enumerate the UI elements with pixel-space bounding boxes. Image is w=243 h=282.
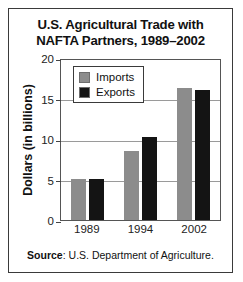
bar-imports-1989 [71,179,86,220]
bar-exports-2002 [195,90,210,220]
plot-area: Imports Exports [60,59,221,221]
y-tick-label: 20 [41,53,54,65]
bar-imports-1994 [124,151,139,220]
bar-exports-1994 [142,137,157,220]
chart-title: U.S. Agricultural Trade with NAFTA Partn… [15,17,226,48]
legend-label-imports: Imports [96,71,134,83]
x-tick-label: 1989 [64,223,110,235]
legend-swatch-imports [79,72,90,83]
chart-figure: U.S. Agricultural Trade with NAFTA Partn… [8,8,233,273]
x-tick-label: 1994 [117,223,163,235]
chart-title-line-1: U.S. Agricultural Trade with [15,17,226,33]
y-tick-label: 5 [48,175,54,187]
chart-legend: Imports Exports [73,66,144,103]
y-tick-label: 15 [41,94,54,106]
x-tick-label: 2002 [171,223,217,235]
bar-group [177,60,210,220]
y-tick-label: 10 [41,134,54,146]
source-label: Source [27,249,63,261]
bar-imports-2002 [177,88,192,220]
source-value: : U.S. Department of Agriculture. [63,249,214,261]
y-axis-tick-labels: 05101520 [31,59,57,221]
legend-item-exports: Exports [79,86,135,98]
bar-exports-1989 [89,179,104,220]
y-tick-label: 0 [48,215,54,227]
chart-title-line-2: NAFTA Partners, 1989–2002 [15,33,226,49]
legend-item-imports: Imports [79,71,135,83]
x-axis-tick-labels: 198919942002 [60,223,221,235]
source-note: Source: U.S. Department of Agriculture. [9,249,232,261]
plot-area-wrapper: Dollars (in billions) 05101520 Imports E… [9,59,234,243]
legend-label-exports: Exports [96,86,135,98]
legend-swatch-exports [79,87,90,98]
